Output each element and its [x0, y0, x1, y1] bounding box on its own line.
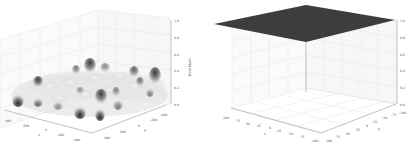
right-surface-plot: 1.0 0.8 0.6 0.4 0.2 0.0 100 75 50 25 0 -…	[206, 0, 412, 153]
svg-text:-25: -25	[372, 120, 377, 124]
svg-text:200: 200	[23, 124, 29, 128]
svg-text:0.4: 0.4	[400, 69, 405, 73]
right-ylabel: y	[378, 127, 380, 131]
svg-text:-200: -200	[57, 133, 64, 137]
svg-text:25: 25	[257, 124, 261, 128]
svg-text:75: 75	[336, 135, 340, 139]
svg-text:0.0: 0.0	[174, 103, 179, 107]
svg-text:0.8: 0.8	[400, 36, 405, 40]
left-xlabel: x	[38, 133, 40, 137]
svg-text:200: 200	[120, 130, 126, 134]
svg-text:-75: -75	[391, 113, 396, 117]
svg-text:0: 0	[45, 128, 47, 132]
svg-text:-75: -75	[299, 135, 304, 139]
svg-text:0: 0	[138, 124, 140, 128]
svg-text:-200: -200	[150, 118, 157, 122]
left-y-ticks: 400 200 0 -200 -400	[104, 113, 167, 140]
svg-text:-50: -50	[288, 132, 293, 136]
svg-text:-25: -25	[276, 129, 281, 133]
svg-text:0.6: 0.6	[174, 53, 179, 57]
svg-text:0.4: 0.4	[174, 69, 179, 73]
right-x-ticks: 100 75 50 25 0 -25 -50 -75 -100	[223, 116, 318, 143]
svg-text:-100: -100	[311, 139, 318, 143]
right-plot-canvas: 1.0 0.8 0.6 0.4 0.2 0.0 100 75 50 25 0 -…	[206, 0, 412, 153]
svg-text:-50: -50	[382, 116, 387, 120]
left-z-ticks: 1.0 0.8 0.6 0.4 0.2 0.0	[174, 19, 179, 107]
svg-text:-100: -100	[399, 111, 406, 115]
svg-text:400: 400	[104, 136, 110, 140]
svg-text:50: 50	[246, 122, 250, 126]
svg-text:0.2: 0.2	[174, 86, 179, 90]
left-plot-canvas: 1.0 0.8 0.6 0.4 0.2 0.0 Error Norm 400 2…	[0, 0, 206, 153]
svg-text:50: 50	[346, 132, 350, 136]
svg-text:100: 100	[326, 139, 332, 143]
svg-text:0: 0	[366, 124, 368, 128]
right-xlabel: x	[264, 132, 266, 136]
left-zlabel: Error Norm	[188, 57, 192, 76]
svg-text:1.0: 1.0	[174, 19, 179, 23]
svg-text:0.0: 0.0	[400, 103, 405, 107]
left-surface-plot: 1.0 0.8 0.6 0.4 0.2 0.0 Error Norm 400 2…	[0, 0, 206, 153]
svg-text:100: 100	[223, 116, 229, 120]
svg-text:-400: -400	[160, 113, 167, 117]
svg-text:0.6: 0.6	[400, 53, 405, 57]
left-ylabel: y	[144, 128, 146, 132]
svg-text:400: 400	[5, 119, 11, 123]
right-z-ticks: 1.0 0.8 0.6 0.4 0.2 0.0	[400, 19, 405, 107]
svg-text:1.0: 1.0	[400, 19, 405, 23]
svg-text:0.8: 0.8	[174, 36, 179, 40]
svg-text:-400: -400	[73, 138, 80, 142]
svg-text:0: 0	[269, 126, 271, 130]
svg-text:75: 75	[236, 119, 240, 123]
svg-text:25: 25	[356, 128, 360, 132]
svg-text:0.2: 0.2	[400, 86, 405, 90]
